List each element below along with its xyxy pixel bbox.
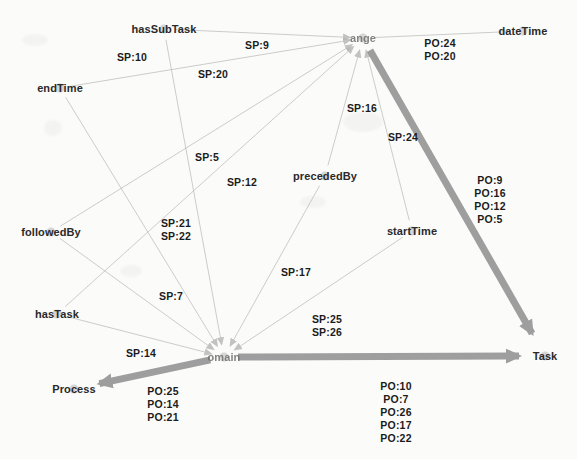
graph-node-domain[interactable]: omain bbox=[208, 351, 241, 363]
graph-node-Task[interactable]: Task bbox=[533, 350, 558, 362]
edge-label-sp21_22: SP:21 SP:22 bbox=[161, 217, 191, 243]
graph-node-hasTask[interactable]: hasTask bbox=[35, 308, 79, 320]
graph-edge bbox=[66, 97, 218, 346]
edge-label-sp20: SP:20 bbox=[198, 68, 228, 81]
graph-node-range[interactable]: ange bbox=[350, 32, 376, 44]
edge-label-sp14: SP:14 bbox=[126, 347, 156, 360]
graph-canvas: hasSubTaskdateTimeangeendTimeprecededByf… bbox=[0, 0, 577, 459]
graph-edge bbox=[99, 360, 210, 384]
edge-label-sp16: SP:16 bbox=[347, 102, 377, 115]
edge-label-po_right: PO:9 PO:16 PO:12 PO:5 bbox=[474, 174, 505, 226]
graph-node-hasSubTask[interactable]: hasSubTask bbox=[132, 23, 197, 35]
edge-label-sp5: SP:5 bbox=[195, 151, 219, 164]
edge-label-sp10: SP:10 bbox=[117, 51, 147, 64]
graph-node-followedBy[interactable]: followedBy bbox=[21, 226, 81, 238]
edge-label-sp12: SP:12 bbox=[227, 176, 257, 189]
edge-label-po_bottom: PO:10 PO:7 PO:26 PO:17 PO:22 bbox=[380, 380, 411, 445]
graph-node-Process[interactable]: Process bbox=[52, 383, 96, 395]
graph-node-endTime[interactable]: endTime bbox=[37, 82, 83, 94]
edge-label-sp9: SP:9 bbox=[245, 39, 269, 52]
edge-label-sp17: SP:17 bbox=[281, 266, 311, 279]
graph-node-precededBy[interactable]: precededBy bbox=[293, 170, 357, 182]
edge-label-sp7: SP:7 bbox=[159, 290, 183, 303]
graph-edge bbox=[175, 29, 350, 37]
edge-label-po25_14_21: PO:25 PO:14 PO:21 bbox=[147, 385, 178, 424]
graph-node-dateTime[interactable]: dateTime bbox=[499, 25, 548, 37]
graph-edge bbox=[238, 356, 519, 357]
graph-edge bbox=[60, 238, 214, 349]
graph-node-startTime[interactable]: startTime bbox=[387, 225, 437, 237]
graph-edge bbox=[370, 50, 532, 333]
edge-label-sp24: SP:24 bbox=[388, 131, 418, 144]
edge-label-po24_20: PO:24 PO:20 bbox=[424, 37, 455, 63]
edge-label-sp25_26: SP:25 SP:26 bbox=[312, 313, 342, 339]
